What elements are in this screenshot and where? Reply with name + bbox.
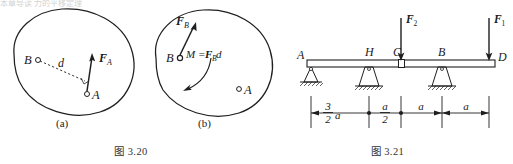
moment-curved-arrow-shaft <box>188 58 211 89</box>
figure-3-21-caption: 图 3.21 <box>262 143 513 158</box>
node-label-d: D <box>497 50 507 64</box>
panel-a-label-b: B <box>24 53 32 67</box>
support-pedestal-h <box>355 67 383 90</box>
moment-label-dist: d <box>216 48 222 60</box>
dim-label-4: a <box>463 100 469 112</box>
hinge-marker-c <box>399 60 405 68</box>
node-label-a: A <box>296 48 305 62</box>
subcaption-a: (a) <box>56 117 68 129</box>
dimension-chain: 3 2 a a 2 a <box>311 96 489 128</box>
panel-b-group: B A F B M = F B d <box>156 10 273 116</box>
node-label-b: B <box>438 45 446 59</box>
svg-text:a: a <box>335 109 341 121</box>
load-f1-sub: 1 <box>502 19 506 28</box>
force-vector-a-shaft <box>87 57 92 91</box>
panel-b-label-force: F <box>175 14 184 28</box>
panel-a-label-d: d <box>58 56 65 70</box>
figure-3-21-drawing: F 2 F 1 A H C B D <box>262 0 513 140</box>
panel-a-label-a: A <box>91 88 100 102</box>
rigid-body-outline-a <box>14 9 134 115</box>
svg-text:2: 2 <box>382 113 388 125</box>
figure-3-21: F 2 F 1 A H C B D <box>262 0 513 164</box>
moment-label-m: M = <box>185 48 205 60</box>
svg-text:3: 3 <box>324 100 331 112</box>
load-f2-sub: 2 <box>414 19 418 28</box>
textbook-figure-page: 本章导读 力的平移定理 B A d F <box>0 0 513 164</box>
point-a-marker-a <box>85 92 90 97</box>
ground-hatch-b <box>428 86 456 90</box>
panel-a-label-force-sub: A <box>106 58 112 67</box>
svg-text:2: 2 <box>325 113 331 125</box>
dim-label-3: a <box>418 100 424 112</box>
panel-b-label-b: B <box>166 51 174 65</box>
dim-label-2: a 2 <box>380 100 390 125</box>
point-b-marker-a <box>36 58 41 63</box>
node-label-c: C <box>393 45 402 59</box>
ground-hatch-h <box>355 86 383 90</box>
panel-a-group: B A d F A <box>14 9 134 115</box>
point-b-marker-b <box>177 55 182 60</box>
panel-b-label-a: A <box>243 83 252 97</box>
point-a-marker-b <box>237 87 242 92</box>
support-pedestal-b <box>428 67 456 90</box>
subcaption-b: (b) <box>198 117 211 129</box>
svg-text:a: a <box>382 100 388 112</box>
figure-3-20-caption: 图 3.20 <box>0 143 262 158</box>
support-pin-a <box>300 67 323 86</box>
dim-label-1: 3 2 a <box>323 100 341 125</box>
figure-3-20-drawing: B A d F A B A <box>0 0 262 140</box>
figure-3-20: B A d F A B A <box>0 0 262 164</box>
node-label-h: H <box>364 45 375 59</box>
panel-b-label-force-sub: B <box>184 21 189 30</box>
ground-hatch-a <box>300 82 323 86</box>
panel-a-label-force: F <box>98 51 107 65</box>
